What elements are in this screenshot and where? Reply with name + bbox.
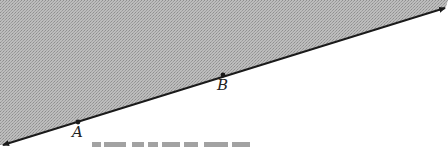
- half-plane-diagram: [0, 0, 448, 147]
- point-a-label: A: [72, 125, 83, 140]
- point-b-label: B: [217, 78, 228, 93]
- shaded-half-plane: [0, 0, 448, 145]
- figure-caption-truncated: [92, 141, 292, 147]
